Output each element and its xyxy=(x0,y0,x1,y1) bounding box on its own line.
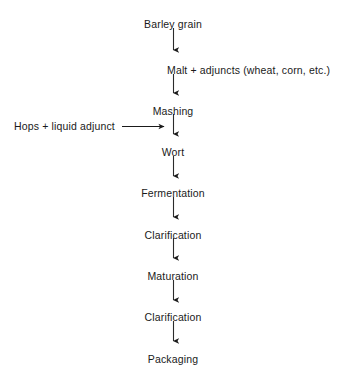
node-label-clarification-first: Clarification xyxy=(145,229,202,241)
node-label-malt-adjuncts: Malt + adjuncts (wheat, corn, etc.) xyxy=(167,64,330,76)
node-label-hops-liquid-adjunct: Hops + liquid adjunct xyxy=(14,120,115,132)
node-mashing: Mashing xyxy=(153,101,194,119)
node-label-clarification-second: Clarification xyxy=(145,311,202,323)
node-label-maturation: Maturation xyxy=(147,270,198,282)
node-label-packaging: Packaging xyxy=(148,353,198,365)
node-label-mashing: Mashing xyxy=(153,105,194,117)
node-clarification-first: Clarification xyxy=(145,225,202,243)
node-malt-adjuncts: Malt + adjuncts (wheat, corn, etc.) xyxy=(167,60,330,78)
node-clarification-second: Clarification xyxy=(145,307,202,325)
node-label-barley-grain: Barley grain xyxy=(144,18,202,30)
node-barley-grain: Barley grain xyxy=(144,14,202,32)
node-label-wort: Wort xyxy=(162,146,185,158)
node-maturation: Maturation xyxy=(147,266,198,284)
node-label-fermentation: Fermentation xyxy=(141,187,205,199)
node-packaging: Packaging xyxy=(148,349,198,367)
node-wort: Wort xyxy=(162,142,185,160)
node-fermentation: Fermentation xyxy=(141,183,205,201)
brewing-process-flowchart: Barley grain Malt + adjuncts (wheat, cor… xyxy=(0,0,346,388)
